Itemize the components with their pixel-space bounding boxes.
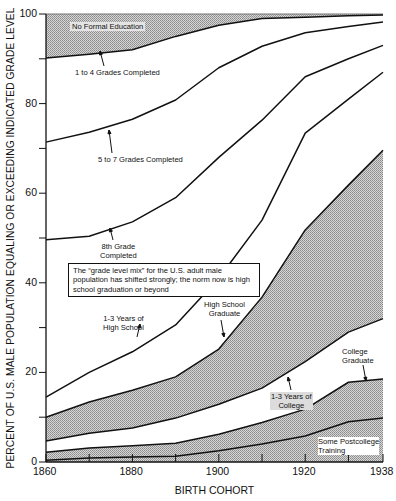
label-1-4-grades: 1 to 4 Grades Completed: [75, 68, 160, 77]
label-no-formal-education: No Formal Education: [70, 22, 145, 31]
label-hs-graduate: High School Graduate: [204, 300, 245, 318]
y-tick-label: 60: [25, 186, 37, 198]
label-hs-graduate-line1: High School: [204, 300, 245, 309]
y-axis-title: PERCENT OF U.S. MALE POPULATION EQUALING…: [0, 14, 20, 462]
y-tick-label: 20: [25, 365, 37, 377]
y-axis-title-text: PERCENT OF U.S. MALE POPULATION EQUALING…: [5, 8, 16, 469]
shaded-bands: [46, 14, 383, 462]
x-tick-label: 1938: [370, 465, 393, 477]
y-tick-label: 100: [19, 7, 37, 19]
label-5-7-grades: 5 to 7 Grades Completed: [98, 155, 183, 164]
x-tick-label: 1860: [33, 465, 56, 477]
x-axis-title: BIRTH COHORT: [46, 484, 383, 496]
label-1-3-years-college: 1-3 Years of College: [270, 392, 313, 410]
label-1-3-years-college-line2: College: [271, 401, 312, 410]
label-1-3-years-hs-line2: High School: [103, 323, 144, 332]
label-1-3-years-hs-line1: 1-3 Years of: [103, 314, 144, 323]
x-tick-label: 1900: [206, 465, 229, 477]
label-college-graduate: College Graduate: [342, 347, 374, 365]
label-college-graduate-line1: College: [342, 347, 374, 356]
label-8th-grade-line2: Completed: [100, 251, 137, 260]
callout-box: The “grade level mix” for the U.S. adult…: [68, 263, 260, 297]
label-1-3-years-hs: 1-3 Years of High School: [103, 314, 144, 332]
label-some-postcollege: Some Postcollege Training: [318, 437, 379, 455]
y-tick-label: 40: [25, 276, 37, 288]
chart-plot: [0, 0, 396, 501]
x-tick-label: 1920: [292, 465, 315, 477]
shaded-band-0: [46, 14, 383, 58]
label-college-graduate-line2: Graduate: [342, 356, 374, 365]
label-1-3-years-college-line1: 1-3 Years of: [271, 392, 312, 401]
label-some-postcollege-line2: Training: [318, 446, 379, 455]
label-hs-graduate-line2: Graduate: [204, 309, 245, 318]
x-tick-label: 1880: [119, 465, 142, 477]
y-tick-label: 80: [25, 97, 37, 109]
label-some-postcollege-line1: Some Postcollege: [318, 437, 379, 446]
label-8th-grade-line1: 8th Grade: [100, 242, 137, 251]
label-8th-grade: 8th Grade Completed: [100, 242, 137, 260]
